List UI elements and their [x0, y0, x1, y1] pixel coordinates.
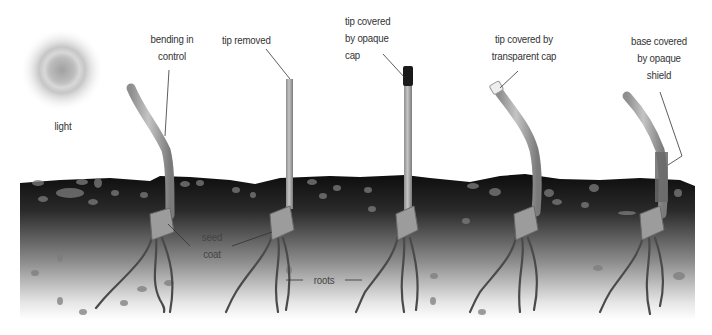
opaque-shield	[655, 152, 668, 202]
opaque-cap	[403, 66, 413, 86]
label-tip-covered-transparent-cap: tip covered by transparent cap	[484, 31, 565, 65]
soil-layer	[20, 174, 695, 320]
seedling-tip-removed	[270, 79, 294, 240]
label-roots: roots	[307, 272, 340, 289]
label-base-covered-opaque-shield: base covered by opaque shield	[625, 33, 694, 84]
light-source-icon	[20, 28, 104, 112]
label-tip-removed: tip removed	[222, 32, 284, 49]
light-label: light	[46, 118, 79, 135]
label-bending-in-control: bending in control	[142, 31, 202, 65]
label-seed-coat: seed coat	[196, 229, 228, 263]
label-tip-covered-opaque-cap: tip covered by opaque cap	[345, 13, 407, 64]
seedling-opaque-cap	[396, 66, 418, 240]
phototropism-diagram: light bending in control tip removed tip…	[0, 0, 712, 335]
